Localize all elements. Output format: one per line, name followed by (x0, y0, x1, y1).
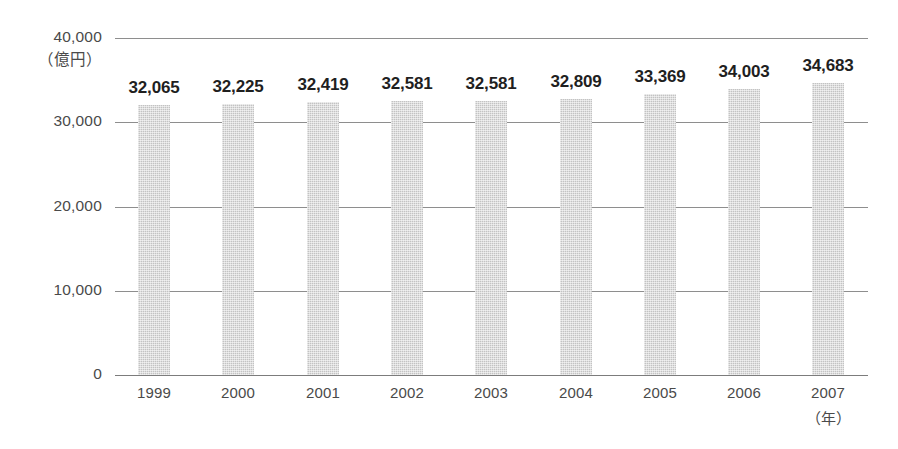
bar-2007 (812, 83, 844, 375)
y-axis-tick-label: 30,000 (16, 112, 102, 130)
y-axis-tick-label: 20,000 (16, 197, 102, 215)
x-axis-tick-label-2007: 2007 (778, 384, 878, 401)
bar-chart-screenshot: 010,00020,00030,00040,000（億円）32,06519993… (0, 0, 898, 449)
x-axis-unit-label: （年） (778, 407, 878, 428)
bar-value-label-2007: 34,683 (778, 56, 878, 76)
y-axis-tick-label: 0 (16, 365, 102, 383)
y-axis-tick-label: 10,000 (16, 281, 102, 299)
bar-2000 (222, 104, 254, 375)
bar-2001 (307, 102, 339, 375)
y-axis-tick-label: 40,000 (16, 28, 102, 46)
bar-2003 (475, 101, 507, 375)
y-axis-unit-label: （億円） (16, 47, 102, 69)
bar-1999 (138, 105, 170, 375)
bar-2002 (391, 101, 423, 375)
gridline-40000 (115, 38, 868, 39)
chart-plot-area: 010,00020,00030,00040,000（億円）32,06519993… (0, 0, 898, 449)
bar-2004 (560, 99, 592, 375)
bar-2006 (728, 89, 760, 375)
gridline-0 (115, 375, 868, 376)
bar-2005 (644, 94, 676, 375)
